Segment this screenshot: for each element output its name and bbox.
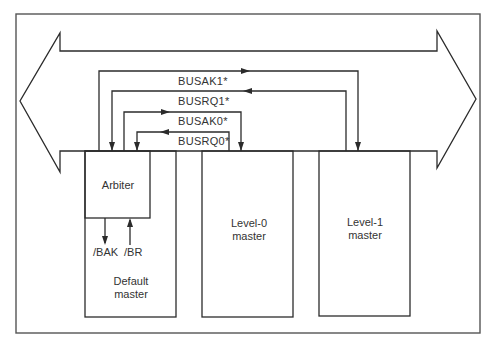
busak0-down-arrowhead (238, 142, 244, 151)
busak0-arrowhead (161, 109, 170, 115)
busrq0-down-arrowhead (134, 142, 140, 151)
default-master-label-line2: master (114, 288, 148, 300)
busak0-label: BUSAK0* (178, 115, 228, 127)
level1-label-line1: Level-1 (347, 216, 383, 228)
busak1-down-arrowhead (355, 142, 361, 151)
busak1-label: BUSAK1* (178, 75, 228, 87)
bus-arbitration-diagram: BUSAK1* BUSRQ1* BUSAK0* BUSRQ0* Arbiter … (0, 0, 492, 345)
bak-arrowhead (102, 236, 108, 245)
busrq1-down-arrowhead (109, 142, 115, 151)
busrq1-label: BUSRQ1* (178, 95, 230, 107)
level0-label-line2: master (232, 230, 266, 242)
busrq0-arrowhead (160, 129, 169, 135)
busrq0-label: BUSRQ0* (178, 135, 230, 147)
arbiter-label: Arbiter (102, 179, 135, 191)
default-master-label-line1: Default (114, 275, 149, 287)
br-label: /BR (124, 246, 142, 258)
bak-label: /BAK (93, 246, 119, 258)
level0-label-line1: Level-0 (231, 217, 267, 229)
br-arrowhead (127, 218, 133, 227)
busak1-arrowhead (241, 68, 250, 74)
busrq1-arrowhead (243, 88, 252, 94)
level1-label-line2: master (348, 229, 382, 241)
